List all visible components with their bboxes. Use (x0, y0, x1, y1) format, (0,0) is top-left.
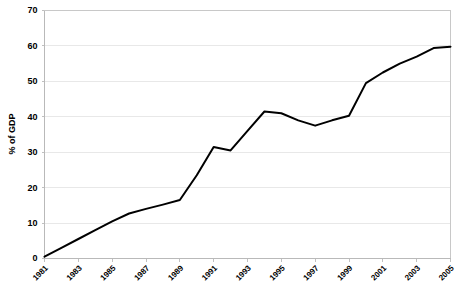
x-tick-label: 2005 (437, 263, 456, 282)
x-tick-label: 1987 (132, 263, 151, 282)
x-tick-label: 1989 (166, 263, 185, 282)
y-tick-label: 30 (27, 147, 37, 157)
data-series-line (45, 47, 451, 257)
y-tick-label: 60 (27, 41, 37, 51)
y-axis-title: % of GDP (7, 113, 17, 154)
x-tick-label: 1991 (200, 263, 219, 282)
y-tick-labels: 010203040506070 (27, 5, 37, 263)
x-tick-labels: 1981198319851987198919911993199519971999… (31, 263, 456, 282)
y-tick-label: 0 (32, 253, 37, 263)
y-tick-label: 50 (27, 76, 37, 86)
x-tick-label: 1981 (31, 263, 50, 282)
y-tick-label: 10 (27, 218, 37, 228)
y-tick-label: 70 (27, 5, 37, 15)
x-tick-label: 1985 (99, 263, 118, 282)
x-tick-label: 1995 (268, 263, 287, 282)
x-tick-label: 1997 (302, 263, 321, 282)
grid-lines (42, 11, 451, 259)
plot-frame (45, 11, 451, 259)
x-tick-label: 2001 (369, 263, 388, 282)
x-tick-label: 1999 (335, 263, 354, 282)
y-tick-label: 40 (27, 112, 37, 122)
x-tick-label: 2003 (403, 263, 422, 282)
y-tick-label: 20 (27, 183, 37, 193)
line-chart: 010203040506070 198119831985198719891991… (0, 0, 461, 289)
x-tick-label: 1993 (234, 263, 253, 282)
x-tick-label: 1983 (65, 263, 84, 282)
chart-container: 010203040506070 198119831985198719891991… (0, 0, 461, 289)
